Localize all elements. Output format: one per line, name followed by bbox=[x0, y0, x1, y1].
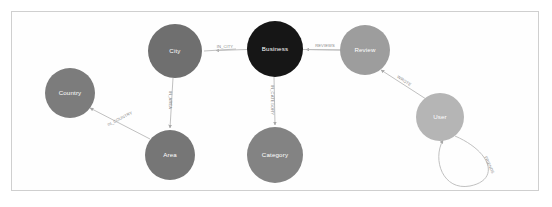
node-category[interactable]: Category bbox=[247, 127, 303, 183]
node-category-label: Category bbox=[262, 151, 289, 158]
edge-friends: FRIENDS bbox=[439, 136, 496, 187]
edge-in-country: IN_COUNTRY bbox=[90, 108, 150, 139]
edge-in-city: IN_CITY bbox=[204, 44, 247, 51]
edge-label-in-area: IN_AREA bbox=[168, 91, 173, 109]
node-city[interactable]: City bbox=[148, 24, 202, 78]
node-business[interactable]: Business bbox=[247, 21, 303, 77]
node-user[interactable]: User bbox=[416, 93, 464, 141]
node-business-label: Business bbox=[262, 45, 288, 52]
edge-wrote: WROTE bbox=[381, 70, 426, 99]
diagram-canvas: IN_CITY REVIEWS IN_AREA IN_CATEGORY IN_C… bbox=[0, 0, 552, 207]
edge-label-friends: FRIENDS bbox=[483, 155, 495, 174]
node-country-label: Country bbox=[59, 89, 82, 96]
graph-diagram: IN_CITY REVIEWS IN_AREA IN_CATEGORY IN_C… bbox=[0, 0, 552, 207]
node-area-label: Area bbox=[163, 151, 177, 158]
edge-in-category: IN_CATEGORY bbox=[270, 77, 275, 125]
edge-label-in-category: IN_CATEGORY bbox=[270, 85, 275, 115]
node-review-label: Review bbox=[354, 46, 376, 53]
node-area[interactable]: Area bbox=[145, 130, 195, 180]
edge-label-reviews: REVIEWS bbox=[315, 43, 335, 48]
node-city-label: City bbox=[169, 47, 181, 54]
edge-reviews: REVIEWS bbox=[303, 43, 345, 50]
edge-in-area: IN_AREA bbox=[168, 78, 173, 128]
node-review[interactable]: Review bbox=[340, 25, 390, 75]
node-user-label: User bbox=[433, 113, 447, 120]
node-country[interactable]: Country bbox=[45, 68, 95, 118]
edge-label-in-city: IN_CITY bbox=[217, 44, 234, 49]
